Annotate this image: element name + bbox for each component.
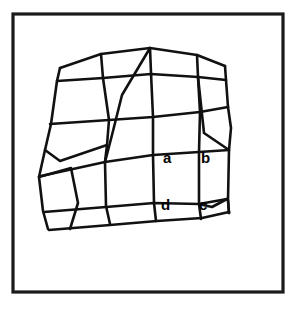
node-label-a: a (163, 149, 172, 166)
mesh-diagram: a b c d (0, 0, 296, 310)
mesh-inner-diagonal-right (198, 77, 229, 150)
mesh-bottom-boundary (49, 212, 229, 230)
mesh-col-1 (101, 54, 110, 224)
figure-container: a b c d (0, 0, 296, 310)
mesh-inner-right-corner (228, 200, 229, 213)
outer-border-rect (13, 14, 283, 292)
mesh-inner-left-short (45, 145, 107, 161)
mesh-row-1 (57, 74, 226, 81)
node-label-d: d (161, 196, 170, 213)
mesh-left-boundary (39, 68, 60, 229)
node-label-b: b (201, 149, 210, 166)
mesh-top-boundary (60, 48, 225, 68)
node-label-c: c (199, 196, 207, 213)
mesh-right-boundary (225, 66, 231, 213)
mesh-col-2-diagonal (105, 48, 150, 162)
